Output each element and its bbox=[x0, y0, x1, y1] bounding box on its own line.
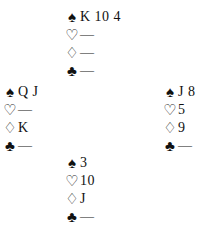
club-icon: ♣ bbox=[65, 62, 79, 80]
north-diamonds-cards: — bbox=[80, 44, 95, 62]
north-diamonds: ♢ — bbox=[65, 44, 121, 62]
south-spades: ♠ 3 bbox=[65, 154, 95, 172]
east-spades-cards: J 8 bbox=[178, 83, 195, 101]
west-hearts: ♡ — bbox=[3, 101, 39, 119]
west-clubs: ♣ — bbox=[3, 137, 39, 155]
west-spades: ♠ Q J bbox=[3, 83, 39, 101]
east-diamonds: ♢ 9 bbox=[163, 119, 195, 137]
spade-icon: ♠ bbox=[65, 8, 79, 26]
diamond-icon: ♢ bbox=[3, 119, 17, 137]
north-hand: ♠ K 10 4 ♡ — ♢ — ♣ — bbox=[65, 8, 121, 80]
heart-icon: ♡ bbox=[65, 26, 79, 44]
diamond-icon: ♢ bbox=[163, 119, 177, 137]
north-hearts-cards: — bbox=[80, 26, 95, 44]
south-spades-cards: 3 bbox=[80, 154, 88, 172]
spade-icon: ♠ bbox=[163, 83, 177, 101]
west-hearts-cards: — bbox=[18, 101, 33, 119]
west-diamonds-cards: K bbox=[18, 119, 29, 137]
diamond-icon: ♢ bbox=[65, 190, 79, 208]
club-icon: ♣ bbox=[3, 137, 17, 155]
south-diamonds: ♢ J bbox=[65, 190, 95, 208]
spade-icon: ♠ bbox=[3, 83, 17, 101]
north-clubs: ♣ — bbox=[65, 62, 121, 80]
spade-icon: ♠ bbox=[65, 154, 79, 172]
east-diamonds-cards: 9 bbox=[178, 119, 186, 137]
heart-icon: ♡ bbox=[65, 172, 79, 190]
north-spades: ♠ K 10 4 bbox=[65, 8, 121, 26]
south-diamonds-cards: J bbox=[80, 190, 86, 208]
west-clubs-cards: — bbox=[18, 137, 33, 155]
north-clubs-cards: — bbox=[80, 62, 95, 80]
east-hearts-cards: 5 bbox=[178, 101, 186, 119]
west-diamonds: ♢ K bbox=[3, 119, 39, 137]
east-hand: ♠ J 8 ♡ 5 ♢ 9 ♣ — bbox=[163, 83, 195, 155]
south-hand: ♠ 3 ♡ 10 ♢ J ♣ — bbox=[65, 154, 95, 226]
east-hearts: ♡ 5 bbox=[163, 101, 195, 119]
heart-icon: ♡ bbox=[3, 101, 17, 119]
club-icon: ♣ bbox=[163, 137, 177, 155]
south-hearts-cards: 10 bbox=[80, 172, 95, 190]
club-icon: ♣ bbox=[65, 208, 79, 226]
east-clubs: ♣ — bbox=[163, 137, 195, 155]
west-spades-cards: Q J bbox=[18, 83, 39, 101]
north-hearts: ♡ — bbox=[65, 26, 121, 44]
south-hearts: ♡ 10 bbox=[65, 172, 95, 190]
east-clubs-cards: — bbox=[178, 137, 193, 155]
south-clubs-cards: — bbox=[80, 208, 95, 226]
heart-icon: ♡ bbox=[163, 101, 177, 119]
north-spades-cards: K 10 4 bbox=[80, 8, 121, 26]
east-spades: ♠ J 8 bbox=[163, 83, 195, 101]
west-hand: ♠ Q J ♡ — ♢ K ♣ — bbox=[3, 83, 39, 155]
south-clubs: ♣ — bbox=[65, 208, 95, 226]
diamond-icon: ♢ bbox=[65, 44, 79, 62]
